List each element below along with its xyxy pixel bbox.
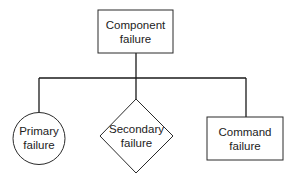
secondary-label-line2: failure — [121, 137, 152, 149]
failure-classification-diagram: Component failure Primary failure Second… — [0, 0, 295, 180]
root-label-line1: Component — [106, 19, 166, 31]
secondary-label-line1: Secondary — [109, 123, 164, 135]
node-component-failure: Component failure — [98, 10, 173, 53]
root-label-line2: failure — [120, 33, 151, 45]
primary-label-line2: failure — [23, 139, 54, 151]
node-primary-failure: Primary failure — [13, 113, 65, 165]
command-rectangle — [207, 117, 283, 160]
command-label-line1: Command — [218, 126, 271, 138]
node-secondary-failure: Secondary failure — [100, 99, 173, 173]
secondary-diamond — [100, 99, 173, 173]
node-command-failure: Command failure — [207, 117, 283, 160]
root-rectangle — [98, 10, 173, 53]
command-label-line2: failure — [229, 140, 260, 152]
primary-label-line1: Primary — [19, 125, 59, 137]
